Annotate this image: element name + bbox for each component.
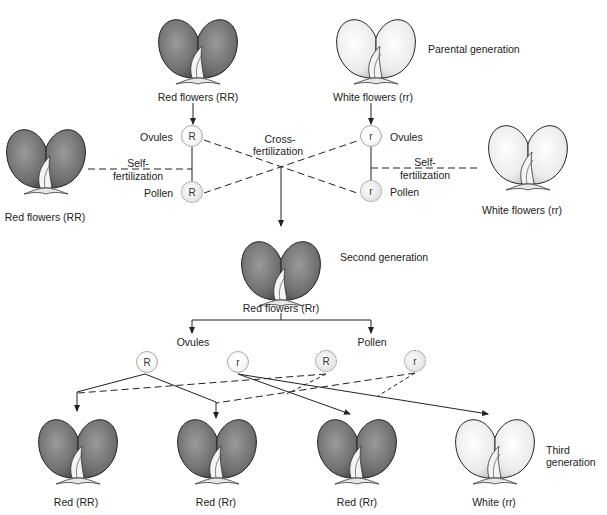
white-parent-label: White flowers (rr)	[333, 91, 413, 103]
white-flower-icon	[489, 126, 568, 190]
left-pollen-label: Pollen	[144, 187, 173, 199]
parental-generation-title: Parental generation	[428, 43, 520, 55]
second-generation-title: Second generation	[340, 251, 428, 263]
diagram-graphics	[0, 0, 607, 515]
red-flower-icon	[242, 242, 321, 306]
white-flower-icon	[456, 420, 535, 484]
red-parent-label: Red flowers (RR)	[158, 91, 239, 103]
mendel-cross-diagram: Red flowers (RR) White flowers (rr) Pare…	[0, 0, 607, 515]
red-flower-icon	[318, 420, 397, 484]
right-ovules-label: Ovules	[390, 131, 423, 143]
left-self-fertilization-label-2: fertilization	[113, 170, 163, 182]
allele-text: R	[188, 131, 195, 142]
offspring-label: Red (Rr)	[196, 496, 236, 508]
left-self-flower-label: Red flowers (RR)	[5, 211, 86, 223]
red-flower-icon	[178, 420, 257, 484]
allele-text: R	[322, 356, 329, 367]
right-self-fertilization-label-2: fertilization	[400, 169, 450, 181]
right-self-flower-label: White flowers (rr)	[482, 204, 562, 216]
cross-fertilization-label-2: fertilization	[253, 145, 303, 157]
red-flower-icon	[39, 420, 118, 484]
f1-ovule-R-icon: R	[136, 351, 158, 373]
offspring-label: Red (RR)	[54, 496, 98, 508]
third-generation-title-2: generation	[546, 456, 596, 468]
white-flower-icon	[337, 20, 416, 84]
second-gen-ovules-label: Ovules	[177, 336, 210, 348]
red-flower-icon	[7, 130, 86, 194]
allele-text: r	[369, 131, 372, 142]
second-gen-flower-label: Red flowers (Rr)	[243, 302, 319, 314]
allele-text: R	[188, 187, 195, 198]
f1-pollen-R-icon: R	[315, 350, 337, 372]
allele-text: r	[369, 186, 372, 197]
f1-pollen-r-icon: r	[404, 350, 426, 372]
allele-text: r	[413, 356, 416, 367]
ovule-R-icon: R	[181, 125, 203, 147]
right-pollen-label: Pollen	[390, 186, 419, 198]
left-ovules-label: Ovules	[140, 131, 173, 143]
right-self-fertilization-label-1: Self-	[414, 156, 436, 168]
allele-text: R	[143, 357, 150, 368]
allele-text: r	[236, 357, 239, 368]
cross-fertilization-label-1: Cross-	[265, 133, 296, 145]
red-flower-icon	[159, 20, 238, 84]
offspring-label: White (rr)	[472, 496, 516, 508]
offspring-label: Red (Rr)	[337, 496, 377, 508]
left-self-fertilization-label-1: Self-	[127, 157, 149, 169]
second-gen-pollen-label: Pollen	[357, 336, 386, 348]
third-generation-title-1: Third	[546, 444, 570, 456]
ovule-r-icon: r	[360, 125, 382, 147]
f1-ovule-r-icon: r	[227, 351, 249, 373]
pollen-R-icon: R	[181, 181, 203, 203]
pollen-r-icon: r	[360, 180, 382, 202]
